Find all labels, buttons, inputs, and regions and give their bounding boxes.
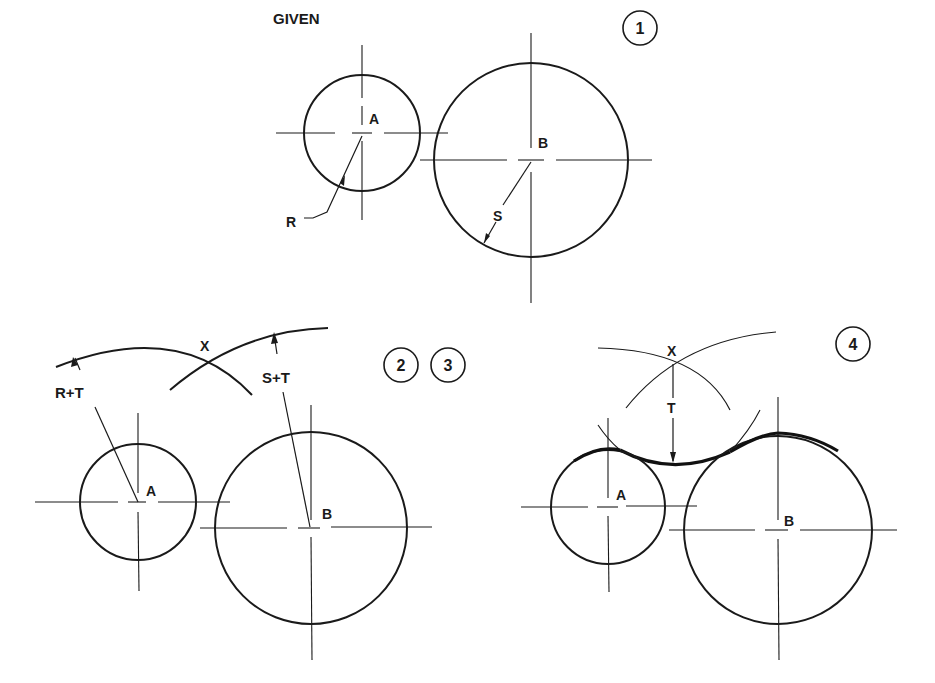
step-badge-3: 3 — [431, 348, 465, 382]
radius-r-leader: R — [286, 136, 362, 230]
label-s: S — [493, 208, 502, 224]
arc-r-plus-t — [598, 348, 730, 410]
step-badge-1: 1 — [623, 11, 657, 45]
label-t: T — [667, 400, 676, 416]
svg-text:3: 3 — [444, 357, 453, 374]
radius-s-leader: S — [484, 162, 531, 243]
label-b: B — [538, 135, 548, 151]
circle-a: A — [276, 45, 448, 220]
step-badge-4: 4 — [836, 327, 870, 361]
label-a: A — [616, 487, 626, 503]
label-b: B — [784, 513, 794, 529]
svg-text:2: 2 — [397, 357, 406, 374]
panel-steps-2-3: 2 3 X R+T S+T A — [35, 328, 465, 660]
panel-given: GIVEN 1 A R — [273, 10, 657, 303]
title-given: GIVEN — [273, 10, 320, 27]
label-a: A — [369, 111, 379, 127]
label-r-plus-t: R+T — [55, 384, 84, 401]
circle-b: B — [200, 405, 432, 660]
label-a: A — [146, 483, 156, 499]
label-r: R — [286, 214, 296, 230]
label-s-plus-t: S+T — [262, 369, 290, 386]
arc-s-plus-t — [626, 332, 776, 408]
circle-b: B — [669, 397, 897, 660]
circle-b: B — [420, 33, 652, 303]
svg-text:1: 1 — [636, 20, 645, 37]
step-badge-2: 2 — [384, 348, 418, 382]
circle-a: A — [35, 413, 230, 591]
construction-diagram: GIVEN 1 A R — [0, 0, 935, 683]
label-x: X — [200, 338, 210, 354]
svg-text:4: 4 — [849, 336, 858, 353]
arc-s-plus-t — [170, 328, 328, 390]
panel-step-4: 4 X T A — [521, 327, 897, 660]
label-x: X — [667, 343, 677, 359]
label-b: B — [322, 506, 332, 522]
circle-a: A — [521, 418, 697, 592]
